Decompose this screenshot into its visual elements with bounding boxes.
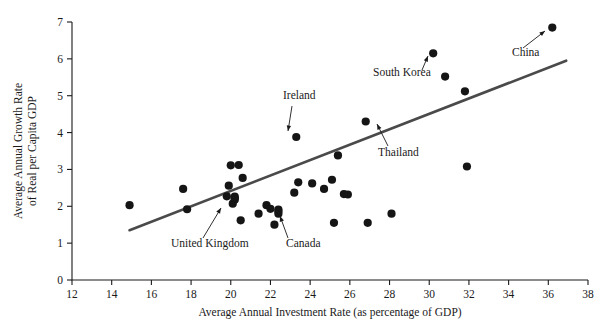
y-tick-label: 2 xyxy=(57,200,63,212)
scatter-plot-svg: 012345671214161820222426283032343638 Ire… xyxy=(0,0,610,326)
data-point-canada xyxy=(274,207,282,215)
data-point xyxy=(254,210,262,218)
x-tick-label: 36 xyxy=(543,288,555,300)
x-tick-label: 12 xyxy=(66,288,78,300)
trend-line xyxy=(130,61,567,231)
axes: 012345671214161820222426283032343638 xyxy=(57,16,594,300)
data-point xyxy=(179,185,187,193)
data-point-china xyxy=(548,23,556,31)
y-tick-label: 6 xyxy=(57,53,63,65)
annotation-arrowhead-south-korea xyxy=(424,56,428,62)
y-axis-title-line1: Average Annual Growth Rate xyxy=(12,83,25,219)
y-axis-title-line2: of Real per Capita GDP xyxy=(26,96,39,206)
x-axis-title: Average Annual Investment Rate (as perce… xyxy=(198,306,461,319)
data-point xyxy=(320,185,328,193)
data-point xyxy=(270,221,278,229)
x-tick-label: 32 xyxy=(463,288,475,300)
x-tick-label: 18 xyxy=(185,288,197,300)
data-point xyxy=(334,151,342,159)
x-tick-label: 34 xyxy=(503,288,515,300)
annotation-label-south-korea: South Korea xyxy=(373,66,431,78)
data-point xyxy=(183,205,191,213)
data-point-thailand xyxy=(362,117,370,125)
annotation-arrowhead-thailand xyxy=(377,124,381,130)
data-point xyxy=(364,219,372,227)
data-point-united-kingdom xyxy=(231,194,239,202)
data-point-south-korea xyxy=(429,49,437,57)
y-tick-label: 0 xyxy=(57,274,63,286)
data-point xyxy=(308,179,316,187)
x-tick-label: 20 xyxy=(225,288,237,300)
annotation-arrowhead-united-kingdom xyxy=(216,208,221,214)
data-point xyxy=(235,161,243,169)
data-point xyxy=(328,176,336,184)
y-tick-label: 1 xyxy=(57,237,63,249)
data-points xyxy=(125,23,556,228)
data-point xyxy=(461,87,469,95)
x-tick-label: 16 xyxy=(146,288,158,300)
x-tick-label: 24 xyxy=(304,288,316,300)
x-tick-label: 14 xyxy=(106,288,118,300)
x-tick-label: 38 xyxy=(582,288,594,300)
x-tick-label: 22 xyxy=(265,288,277,300)
annotation-label-canada: Canada xyxy=(286,237,320,249)
annotation-arrowhead-ireland xyxy=(287,125,291,131)
data-point xyxy=(125,201,133,209)
regression-line xyxy=(130,61,567,231)
data-point xyxy=(294,178,302,186)
scatter-plot-figure: 012345671214161820222426283032343638 Ire… xyxy=(0,0,610,326)
data-point xyxy=(330,219,338,227)
annotation-label-thailand: Thailand xyxy=(378,146,419,158)
y-tick-label: 7 xyxy=(57,16,63,28)
data-point xyxy=(463,162,471,170)
y-tick-label: 4 xyxy=(57,127,63,139)
data-point xyxy=(239,174,247,182)
x-tick-label: 30 xyxy=(423,288,435,300)
data-point xyxy=(266,205,274,213)
y-tick-label: 3 xyxy=(57,163,63,175)
data-point xyxy=(227,161,235,169)
data-point xyxy=(344,190,352,198)
annotation-label-ireland: Ireland xyxy=(283,89,316,101)
x-tick-label: 28 xyxy=(384,288,396,300)
y-tick-label: 5 xyxy=(57,90,63,102)
annotation-arrowhead-canada xyxy=(280,216,284,222)
annotation-arrowhead-china xyxy=(539,31,545,36)
data-point xyxy=(225,182,233,190)
data-point xyxy=(237,216,245,224)
annotation-label-china: China xyxy=(512,46,539,58)
data-point xyxy=(223,192,231,200)
x-tick-label: 26 xyxy=(344,288,356,300)
data-point-ireland xyxy=(292,133,300,141)
data-point xyxy=(441,72,449,80)
data-point xyxy=(290,189,298,197)
annotation-label-united-kingdom: United Kingdom xyxy=(171,237,249,250)
data-point xyxy=(387,210,395,218)
axis-spines xyxy=(72,22,588,280)
